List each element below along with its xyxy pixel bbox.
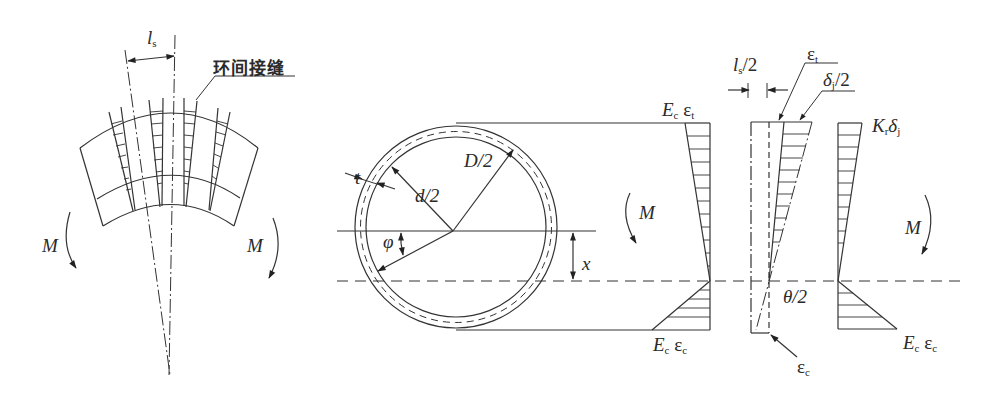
moment-left-label: M [42, 236, 58, 255]
neutral-offset-x-label: x [582, 254, 590, 273]
angle-phi-label: φ [383, 232, 394, 251]
inner-radius-label: d/2 [415, 186, 439, 205]
joint-strain-diagram [728, 63, 855, 357]
eps-t-label: εt [807, 44, 818, 65]
ec-ec-bottom-label: Ec εc [653, 335, 687, 356]
delta-j-half-label: δj/2 [823, 70, 850, 91]
eps-c-label: εc [797, 357, 810, 378]
tunnel-cross-section [337, 123, 960, 330]
ls-sub: s [152, 37, 156, 49]
moment-right-stress-label: M [905, 218, 921, 237]
ec-et-label: Ec εt [662, 100, 694, 121]
theta-half-label: θ/2 [783, 287, 807, 306]
moment-section-label: M [639, 203, 655, 222]
ring-joint-label: 环间接缝 [213, 54, 285, 79]
segment-joint-mechanics-diagram: 环间接缝 ls M M t d/2 D/2 φ x M Ec εt Ec εc … [0, 0, 981, 395]
ls-half-label: ls/2 [733, 55, 757, 76]
thickness-label: t [355, 168, 360, 187]
moment-right-label: M [247, 236, 263, 255]
ec-ec-right-label: Ec εc [903, 333, 937, 354]
ls-label: ls [147, 28, 157, 49]
concrete-stress-diagram [652, 123, 710, 330]
diagram-graphics [0, 0, 981, 395]
segment-ring-view [66, 35, 295, 375]
kr-delta-label: Krδj [872, 116, 900, 137]
outer-radius-label: D/2 [464, 151, 493, 170]
